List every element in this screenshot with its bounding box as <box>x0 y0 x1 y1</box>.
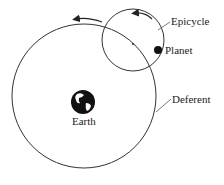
deferent-arrow-icon <box>76 18 102 22</box>
earth-label: Earth <box>72 116 96 127</box>
planet-dot <box>154 46 162 54</box>
epicycle-circle <box>102 9 164 71</box>
deferent-leader-line <box>156 99 171 112</box>
epicycle-center-dot <box>132 43 134 45</box>
epicycle-label: Epicycle <box>171 16 209 27</box>
earth-globe-icon <box>71 90 95 114</box>
planet-label: Planet <box>165 45 193 56</box>
epicycle-leader-line <box>158 22 170 30</box>
deferent-label: Deferent <box>172 94 210 105</box>
